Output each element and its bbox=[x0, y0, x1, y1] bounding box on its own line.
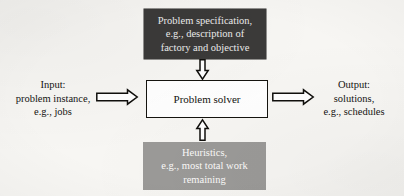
output-caption-line-2: solutions, bbox=[306, 92, 402, 106]
arrow-right-icon bbox=[96, 86, 138, 108]
output-caption: Output: solutions, e.g., schedules bbox=[306, 78, 402, 119]
heuristics-line-3: remaining bbox=[183, 173, 226, 186]
output-caption-line-1: Output: bbox=[306, 78, 402, 92]
arrow-up-icon bbox=[196, 119, 209, 141]
problem-solver-label: Problem solver bbox=[174, 92, 241, 106]
heuristics-box: Heuristics, e.g., most total work remain… bbox=[143, 142, 266, 190]
input-caption-line-3: e.g., jobs bbox=[6, 105, 100, 119]
heuristics-line-2: e.g., most total work bbox=[161, 159, 247, 172]
arrow-down-icon bbox=[196, 59, 209, 80]
problem-specification-line-2: e.g., description of bbox=[166, 27, 244, 41]
problem-specification-line-3: factory and objective bbox=[161, 41, 250, 55]
input-caption-line-1: Input: bbox=[6, 78, 100, 92]
problem-specification-box: Problem specification, e.g., description… bbox=[144, 9, 266, 59]
input-caption: Input: problem instance, e.g., jobs bbox=[6, 78, 100, 119]
output-caption-line-3: e.g., schedules bbox=[306, 105, 402, 119]
input-caption-line-2: problem instance, bbox=[6, 92, 100, 106]
problem-solver-box: Problem solver bbox=[146, 80, 268, 118]
diagram-canvas: Problem specification, e.g., description… bbox=[0, 0, 404, 196]
problem-specification-line-1: Problem specification, bbox=[158, 14, 252, 28]
heuristics-line-1: Heuristics, bbox=[182, 146, 227, 159]
